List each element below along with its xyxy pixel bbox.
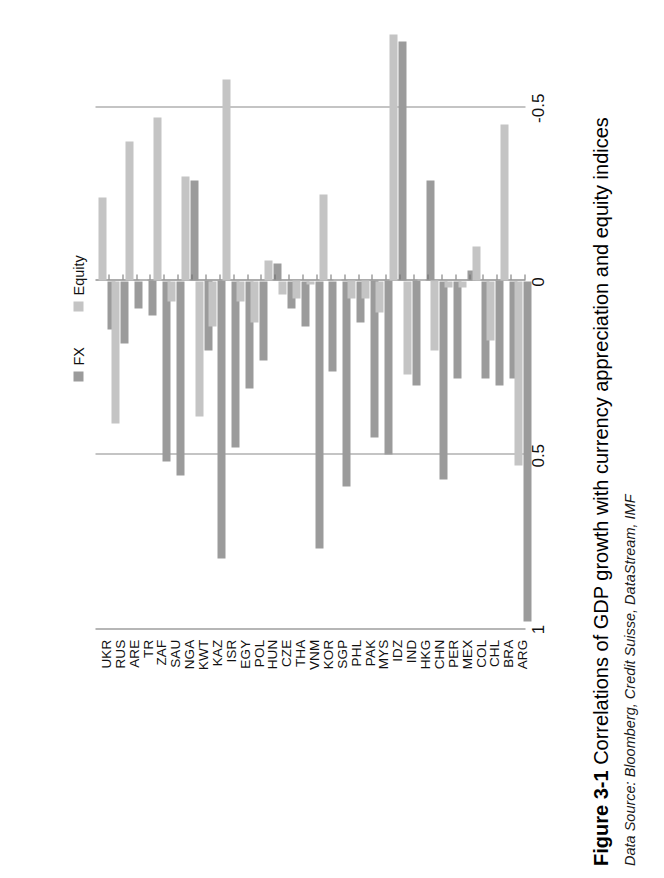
legend-item-equity[interactable]: Equity: [71, 255, 87, 311]
bar-equity: [112, 281, 120, 423]
bar-equity: [486, 281, 494, 340]
plot-area: [96, 0, 526, 630]
bar-equity: [431, 281, 439, 351]
plot-inner: [96, 0, 526, 629]
bar-equity: [306, 281, 314, 284]
bar-equity: [195, 281, 203, 417]
bar-equity: [98, 198, 106, 281]
bar-equity: [223, 79, 231, 281]
bar-equity: [500, 125, 508, 281]
bar-equity: [181, 177, 189, 281]
bar-equity: [417, 280, 425, 281]
bar-equity: [167, 281, 175, 302]
bar-equity: [348, 281, 356, 298]
bar-equity: [334, 280, 342, 281]
bar-equity: [292, 281, 300, 298]
legend-swatch-icon: [74, 372, 84, 382]
bar-equity: [264, 260, 272, 281]
figure-source: Data Source: Bloomberg, Credit Suisse, D…: [622, 494, 638, 866]
bar-equity: [445, 281, 453, 288]
bar-equity: [153, 118, 161, 281]
caption-block: Figure 3-1 Correlations of GDP growth wi…: [556, 0, 664, 878]
axis-tick: [524, 275, 525, 280]
category-label-arg: ARG: [512, 640, 535, 670]
bar-equity: [403, 281, 411, 375]
legend-label: FX: [71, 347, 87, 366]
bar-equity: [278, 281, 286, 295]
value-tick-label: 0.5: [529, 444, 549, 468]
bar-equity: [209, 281, 217, 326]
bar-equity: [362, 281, 370, 298]
legend-item-fx[interactable]: FX: [71, 347, 87, 382]
chart-rotation-wrapper: FXEquity UKRRUSARETRZAFSAUNGAKWTKAZISREG…: [71, 0, 594, 700]
figure-page: FXEquity UKRRUSARETRZAFSAUNGAKWTKAZISREG…: [0, 0, 664, 878]
bar-equity: [375, 281, 383, 312]
legend-swatch-icon: [74, 302, 84, 312]
bar-chart: FXEquity UKRRUSARETRZAFSAUNGAKWTKAZISREG…: [71, 0, 594, 700]
legend-label: Equity: [71, 255, 87, 295]
value-tick-label: 1: [529, 625, 549, 634]
value-tick-label: 0: [529, 277, 549, 286]
bar-equity: [237, 281, 245, 302]
figure-caption: Figure 3-1 Correlations of GDP growth wi…: [590, 117, 613, 866]
bar-equity: [473, 246, 481, 281]
bar-equity: [251, 281, 259, 323]
bar-equity: [459, 281, 467, 288]
bar-equity: [140, 280, 148, 281]
value-tick-label: -0.5: [529, 94, 549, 123]
bar-equity: [126, 142, 134, 281]
chart-legend: FXEquity: [71, 0, 93, 700]
bar-equity: [514, 281, 522, 465]
bar-equity: [320, 194, 328, 281]
bar-equity: [389, 34, 397, 281]
figure-caption-text: Correlations of GDP growth with currency…: [590, 117, 612, 765]
figure-number: Figure 3-1: [590, 770, 612, 866]
category-axis-labels: UKRRUSARETRZAFSAUNGAKWTKAZISREGYPOLHUNCZ…: [96, 636, 526, 700]
